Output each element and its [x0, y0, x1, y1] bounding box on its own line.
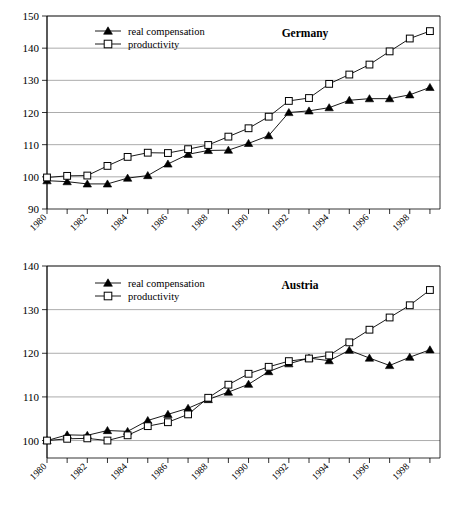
data-point-marker: [427, 287, 434, 294]
data-point-marker: [244, 139, 252, 146]
legend-marker-triangle: [104, 279, 113, 286]
y-tick-label: 120: [23, 347, 40, 359]
x-tick-label: 1984: [109, 212, 130, 233]
data-point-marker: [306, 95, 313, 102]
data-point-marker: [366, 326, 373, 333]
chart-panel-germany: 9010011012013014015019801982198419861988…: [0, 0, 454, 256]
data-point-marker: [386, 48, 393, 55]
data-point-marker: [144, 149, 151, 156]
data-point-marker: [185, 411, 192, 418]
data-point-marker: [245, 370, 252, 377]
figure-root: 9010011012013014015019801982198419861988…: [0, 0, 454, 512]
data-point-marker: [224, 146, 232, 153]
legend-marker-square: [104, 40, 112, 48]
data-point-marker: [285, 358, 292, 365]
data-point-marker: [205, 142, 212, 149]
data-point-marker: [165, 419, 172, 426]
germany-plot-svg: 9010011012013014015019801982198419861988…: [0, 0, 454, 256]
data-point-marker: [144, 172, 152, 179]
austria-plot-svg: 1001101201301401980198219841986198819901…: [0, 256, 454, 512]
y-tick-label: 150: [23, 10, 40, 22]
x-tick-label: 1980: [28, 212, 49, 233]
data-point-marker: [245, 125, 252, 132]
data-point-marker: [184, 404, 192, 411]
data-point-marker: [406, 35, 413, 42]
data-point-marker: [124, 432, 131, 439]
legend-marker-square: [104, 292, 112, 300]
x-tick-label: 1998: [391, 461, 412, 482]
data-point-marker: [365, 354, 373, 361]
data-point-marker: [44, 437, 51, 444]
legend-label-productivity: productivity: [128, 291, 180, 302]
panel-title: Germany: [282, 27, 329, 40]
data-point-marker: [185, 146, 192, 153]
data-point-marker: [104, 437, 111, 444]
data-point-marker: [124, 153, 131, 160]
x-tick-label: 1994: [310, 461, 331, 482]
y-tick-label: 100: [23, 435, 40, 447]
data-point-marker: [345, 346, 353, 353]
data-point-marker: [285, 98, 292, 105]
x-tick-label: 1994: [310, 212, 331, 233]
data-point-marker: [426, 346, 434, 353]
data-point-marker: [426, 83, 434, 90]
y-tick-label: 110: [23, 139, 40, 151]
y-tick-label: 90: [28, 203, 40, 215]
data-point-marker: [164, 160, 172, 167]
data-point-marker: [366, 61, 373, 68]
x-tick-label: 1988: [189, 461, 210, 482]
x-tick-label: 1980: [28, 461, 49, 482]
data-point-marker: [84, 172, 91, 179]
series-line-productivity: [47, 31, 430, 177]
data-point-marker: [225, 381, 232, 388]
data-point-marker: [406, 302, 413, 309]
x-tick-label: 1988: [189, 212, 210, 233]
x-tick-label: 1986: [149, 461, 170, 482]
data-point-marker: [225, 133, 232, 140]
y-tick-label: 140: [23, 260, 40, 272]
data-point-marker: [144, 423, 151, 430]
series-line-productivity: [47, 290, 430, 441]
data-point-marker: [427, 28, 434, 35]
series-line-real-compensation: [47, 350, 430, 441]
y-tick-label: 100: [23, 171, 40, 183]
data-point-marker: [165, 150, 172, 157]
x-tick-label: 1998: [391, 212, 412, 233]
legend-label-real-compensation: real compensation: [128, 26, 205, 37]
x-tick-label: 1992: [270, 461, 291, 482]
data-point-marker: [346, 339, 353, 346]
data-point-marker: [385, 361, 393, 368]
x-tick-label: 1986: [149, 212, 170, 233]
data-point-marker: [326, 80, 333, 87]
data-point-marker: [406, 91, 414, 98]
data-point-marker: [265, 113, 272, 120]
data-point-marker: [386, 314, 393, 321]
data-point-marker: [306, 355, 313, 362]
data-point-marker: [346, 71, 353, 78]
y-tick-label: 110: [23, 391, 40, 403]
data-point-marker: [44, 174, 51, 181]
data-point-marker: [64, 172, 71, 179]
x-tick-label: 1996: [350, 461, 371, 482]
data-point-marker: [64, 435, 71, 442]
x-tick-label: 1984: [109, 461, 130, 482]
chart-panel-austria: 1001101201301401980198219841986198819901…: [0, 256, 454, 512]
data-point-marker: [205, 394, 212, 401]
x-tick-label: 1982: [68, 461, 89, 482]
data-point-marker: [84, 435, 91, 442]
data-point-marker: [326, 352, 333, 359]
data-point-marker: [104, 162, 111, 169]
y-tick-label: 130: [23, 304, 40, 316]
data-point-marker: [406, 353, 414, 360]
y-tick-label: 130: [23, 74, 40, 86]
x-tick-label: 1992: [270, 212, 291, 233]
data-point-marker: [103, 427, 111, 434]
x-tick-label: 1996: [350, 212, 371, 233]
legend-label-real-compensation: real compensation: [128, 278, 205, 289]
panel-title: Austria: [281, 279, 318, 291]
legend-label-productivity: productivity: [128, 39, 180, 50]
x-tick-label: 1990: [229, 212, 250, 233]
y-tick-label: 120: [23, 107, 40, 119]
x-tick-label: 1982: [68, 212, 89, 233]
y-tick-label: 140: [23, 42, 40, 54]
